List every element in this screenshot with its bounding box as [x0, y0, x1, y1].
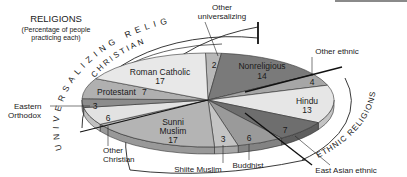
label-other-ethnic: Other ethnic	[315, 47, 359, 56]
value-other-universalizing: 2	[212, 60, 217, 70]
label-eastern-orthodox-2: Orthodox	[8, 111, 41, 120]
value-hindu: 13	[302, 105, 312, 115]
value-roman-catholic: 17	[155, 76, 165, 86]
label-nonreligious: Nonreligious	[238, 61, 285, 71]
label-east-asian: East Asian ethnic	[315, 166, 376, 175]
value-nonreligious: 14	[257, 71, 267, 81]
label-other-universalizing-2: universalizing	[198, 12, 246, 21]
label-eastern-orthodox: Eastern	[14, 102, 42, 111]
label-buddhist: Buddhist	[232, 161, 264, 170]
value-other-ethnic: 4	[310, 77, 315, 87]
label-other-christian-2: Christian	[103, 155, 135, 164]
label-protestant: Protestant	[97, 87, 136, 97]
value-sunni: 17	[168, 135, 178, 145]
value-other-christian: 6	[106, 113, 111, 123]
value-east-asian: 7	[283, 125, 288, 135]
value-eastern-orthodox: 3	[93, 101, 98, 111]
leader-other-universalizing	[205, 22, 218, 56]
value-buddhist: 6	[247, 133, 252, 143]
value-shiite: 3	[221, 134, 226, 144]
label-shiite: Shiite Muslim	[174, 165, 222, 174]
religions-pie-chart: UNIVERSALIZING RELIGIONS CHRISTIAN ETHNI…	[0, 0, 407, 177]
chart-subtitle-line2: practicing each)	[31, 34, 80, 42]
chart-title: RELIGIONS	[30, 13, 82, 24]
chart-subtitle-line1: (Percentage of people	[22, 26, 91, 34]
value-protestant: 7	[142, 87, 147, 97]
label-other-universalizing: Other	[212, 3, 232, 12]
label-other-christian: Other	[103, 146, 123, 155]
